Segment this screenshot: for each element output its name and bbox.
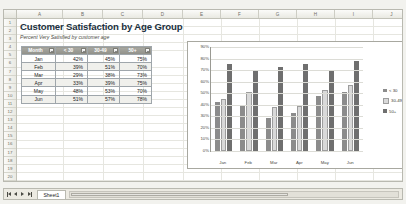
bar-jun-series2[interactable]	[354, 61, 359, 151]
bar-mar-series0[interactable]	[266, 118, 271, 152]
row-header-19[interactable]: 19	[4, 165, 16, 173]
cell-month[interactable]: Feb	[22, 63, 56, 71]
column-header-30to49[interactable]: 30-49	[88, 47, 120, 55]
legend-item[interactable]: < 30	[383, 88, 402, 93]
bar-may-series1[interactable]	[322, 90, 327, 151]
row-header-13[interactable]: 13	[4, 116, 16, 124]
column-header-d[interactable]: D	[143, 10, 183, 18]
cell-month[interactable]: Mar	[22, 71, 56, 79]
column-header-j[interactable]: J	[373, 10, 403, 18]
row-header-7[interactable]: 7	[4, 68, 16, 76]
filter-dropdown-icon-50plus[interactable]	[145, 48, 150, 53]
column-header-e[interactable]: E	[183, 10, 221, 18]
horizontal-scrollbar-thumb[interactable]	[71, 193, 287, 196]
table-row[interactable]: Mar 29% 38% 73%	[22, 71, 152, 79]
last-sheet-icon[interactable]	[27, 191, 32, 197]
row-header-4[interactable]: 4	[4, 43, 16, 51]
table-row[interactable]: Jun 51% 57% 78%	[22, 95, 152, 103]
row-header-5[interactable]: 5	[4, 51, 16, 59]
row-header-8[interactable]: 8	[4, 76, 16, 84]
bar-mar-series2[interactable]	[278, 67, 283, 151]
row-header-9[interactable]: 9	[4, 84, 16, 92]
row-header-6[interactable]: 6	[4, 59, 16, 67]
cell-50plus[interactable]: 78%	[120, 95, 152, 103]
cell-under30[interactable]: 48%	[56, 87, 88, 95]
legend-item[interactable]: 50+	[383, 109, 402, 114]
sheet-tab-bar[interactable]: Sheet1	[3, 188, 403, 200]
cell-50plus[interactable]: 75%	[120, 55, 152, 63]
next-sheet-icon[interactable]	[20, 191, 25, 197]
bar-jun-series0[interactable]	[342, 92, 347, 151]
column-header-a[interactable]: A	[17, 10, 63, 18]
cell-30to49[interactable]: 45%	[88, 55, 120, 63]
table-row[interactable]: Apr 33% 39% 75%	[22, 79, 152, 87]
data-table[interactable]: Month < 30 30-49 50+	[21, 46, 152, 104]
worksheet-grid[interactable]: A B C D E F G H I J 1 2 3 4 5 6 7 8 9 10…	[3, 9, 403, 182]
row-header-20[interactable]: 20	[4, 173, 16, 181]
row-header-18[interactable]: 18	[4, 157, 16, 165]
table-row[interactable]: Jan 42% 45% 75%	[22, 55, 152, 63]
cell-30to49[interactable]: 39%	[88, 79, 120, 87]
cell-month[interactable]: Apr	[22, 79, 56, 87]
cell-50plus[interactable]: 73%	[120, 71, 152, 79]
cell-area[interactable]: Customer Satisfaction by Age Group Perce…	[17, 19, 402, 181]
bar-mar-series1[interactable]	[272, 107, 277, 151]
cell-under30[interactable]: 33%	[56, 79, 88, 87]
row-header-11[interactable]: 11	[4, 100, 16, 108]
bar-jun-series1[interactable]	[348, 85, 353, 151]
row-header-15[interactable]: 15	[4, 132, 16, 140]
row-header-17[interactable]: 17	[4, 149, 16, 157]
column-header-f[interactable]: F	[221, 10, 259, 18]
cell-30to49[interactable]: 51%	[88, 63, 120, 71]
legend-item[interactable]: 30-49	[383, 98, 402, 104]
y-axis-tick-label: 90%	[200, 45, 209, 49]
row-header-12[interactable]: 12	[4, 108, 16, 116]
cell-30to49[interactable]: 38%	[88, 71, 120, 79]
cell-under30[interactable]: 29%	[56, 71, 88, 79]
select-all-corner[interactable]	[4, 10, 17, 18]
table-row[interactable]: May 48% 53% 70%	[22, 87, 152, 95]
cell-50plus[interactable]: 70%	[120, 87, 152, 95]
row-header-3[interactable]: 3	[4, 35, 16, 43]
column-header-c[interactable]: C	[103, 10, 143, 18]
cell-50plus[interactable]: 75%	[120, 79, 152, 87]
embedded-bar-chart[interactable]: 0%10%20%30%40%50%60%70%80%90% JanFebMarA…	[187, 41, 402, 169]
chart-legend[interactable]: < 3030-4950+	[383, 88, 402, 114]
cell-month[interactable]: May	[22, 87, 56, 95]
cell-under30[interactable]: 42%	[56, 55, 88, 63]
table-row[interactable]: Feb 39% 51% 70%	[22, 63, 152, 71]
horizontal-scrollbar[interactable]	[69, 191, 399, 198]
column-header-h[interactable]: H	[297, 10, 335, 18]
cell-50plus[interactable]: 70%	[120, 63, 152, 71]
row-header-2[interactable]: 2	[4, 27, 16, 35]
filter-dropdown-icon-month[interactable]	[49, 48, 54, 53]
row-header-1[interactable]: 1	[4, 19, 16, 27]
filter-dropdown-icon-under30[interactable]	[81, 48, 86, 53]
previous-sheet-icon[interactable]	[14, 191, 19, 197]
bar-feb-series1[interactable]	[246, 92, 251, 151]
cell-under30[interactable]: 51%	[56, 95, 88, 103]
cell-30to49[interactable]: 57%	[88, 95, 120, 103]
cell-month[interactable]: Jan	[22, 55, 56, 63]
column-header-month[interactable]: Month	[22, 47, 56, 55]
row-header-14[interactable]: 14	[4, 124, 16, 132]
column-header-50plus[interactable]: 50+	[120, 47, 152, 55]
column-header-under30[interactable]: < 30	[56, 47, 88, 55]
column-header-b[interactable]: B	[63, 10, 103, 18]
sheet-tab-sheet1[interactable]: Sheet1	[37, 190, 67, 199]
row-header-16[interactable]: 16	[4, 140, 16, 148]
bar-jan-series1[interactable]	[221, 99, 226, 151]
bar-apr-series2[interactable]	[303, 64, 308, 151]
bar-jan-series0[interactable]	[215, 102, 220, 151]
first-sheet-icon[interactable]	[7, 191, 12, 197]
bar-jan-series2[interactable]	[227, 64, 232, 151]
row-header-10[interactable]: 10	[4, 92, 16, 100]
cell-30to49[interactable]: 53%	[88, 87, 120, 95]
bar-apr-series0[interactable]	[291, 113, 296, 151]
cell-month[interactable]: Jun	[22, 95, 56, 103]
column-header-i[interactable]: I	[335, 10, 373, 18]
cell-under30[interactable]: 39%	[56, 63, 88, 71]
column-header-g[interactable]: G	[259, 10, 297, 18]
filter-dropdown-icon-30to49[interactable]	[113, 48, 118, 53]
sheet-navigation-buttons[interactable]	[4, 191, 35, 197]
